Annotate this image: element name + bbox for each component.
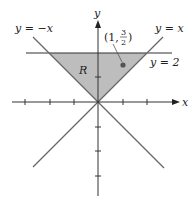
label-y-eq-x: y = x [154, 22, 184, 35]
x-axis-label: x [182, 96, 189, 109]
y-axis-label: y [93, 7, 101, 20]
point-marker [120, 62, 125, 67]
label-y-eq-2: y = 2 [149, 56, 179, 69]
svg-text:): ) [128, 31, 132, 44]
point-label: (1, 3 2 ) [104, 28, 132, 47]
svg-text:2: 2 [121, 38, 126, 47]
svg-text:(1,: (1, [104, 31, 119, 44]
y-axis-arrow-icon [95, 20, 101, 28]
svg-text:3: 3 [121, 28, 126, 37]
diagram-canvas: y x y = −x y = x y = 2 R (1, 3 2 ) [0, 0, 195, 201]
x-axis-arrow-icon [172, 99, 180, 105]
region-label: R [78, 64, 87, 77]
label-y-eq-neg-x: y = −x [14, 22, 54, 35]
